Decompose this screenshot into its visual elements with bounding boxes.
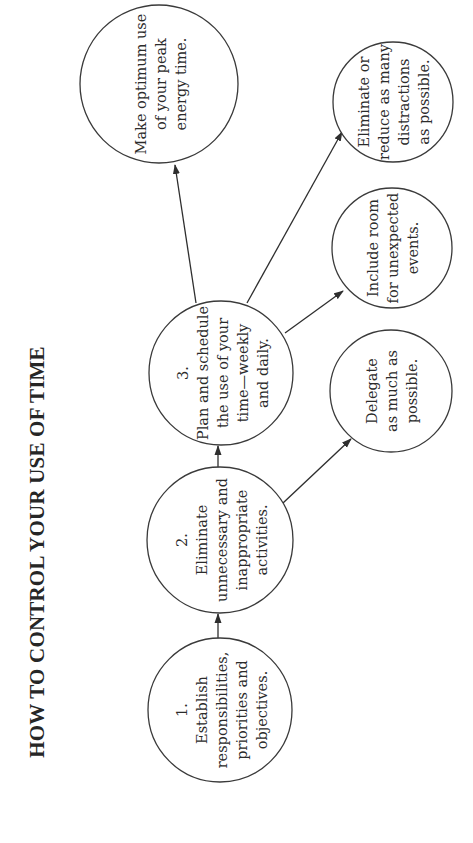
node-step1: 1. Establish responsibilities, prioritie… — [148, 638, 292, 782]
arrow-step3-to-distractions — [247, 132, 342, 303]
node-distractions: Eliminate or reduce as many distractions… — [333, 42, 453, 162]
node-distractions-line4: as possible. — [416, 59, 432, 144]
node-distractions-line3: distractions — [396, 59, 412, 146]
node-delegate-line1: Delegate — [364, 358, 380, 424]
arrow-step3-to-unexpected — [285, 291, 343, 333]
node-step3-line2: the use of your — [215, 318, 231, 428]
node-step1-line2: responsibilities, — [214, 652, 230, 769]
node-step2-line2: unnecessary and — [214, 478, 230, 602]
node-step3-line4: and daily. — [255, 338, 271, 408]
node-step2-line3: inappropriate — [234, 490, 250, 591]
node-distractions-circle — [333, 42, 453, 162]
node-step3-number: 3. — [175, 366, 191, 380]
node-step1-line1: Establish — [194, 676, 210, 744]
node-peak-energy: Make optimum use of your peak energy tim… — [80, 5, 238, 163]
diagram-title: HOW TO CONTROL YOUR USE OF TIME — [25, 346, 49, 758]
arrow-step3-to-peak-energy — [175, 165, 196, 303]
node-unexpected-line1: Include room — [365, 199, 381, 297]
node-delegate-line3: possible. — [404, 359, 420, 424]
node-peak-energy-line1: Make optimum use — [133, 14, 149, 155]
node-delegate-line2: as much as — [384, 350, 400, 432]
node-distractions-line1: Eliminate or — [356, 56, 372, 147]
node-peak-energy-line2: of your peak — [153, 38, 169, 130]
node-unexpected: Include room for unexpected events. — [332, 188, 452, 308]
node-distractions-line2: reduce as many — [376, 43, 392, 160]
node-step2-line1: Eliminate — [194, 505, 210, 576]
node-delegate: Delegate as much as possible. — [330, 330, 452, 452]
node-unexpected-line2: for unexpected — [385, 193, 401, 304]
node-peak-energy-line3: energy time. — [173, 38, 189, 131]
node-unexpected-line3: events. — [405, 222, 421, 275]
node-step2: 2. Eliminate unnecessary and inappropria… — [147, 467, 293, 613]
arrow-step2-to-delegate — [283, 439, 351, 503]
node-step2-line4: activities. — [254, 504, 270, 575]
node-step3-line3: time—weekly — [235, 323, 251, 422]
node-step1-number: 1. — [174, 703, 190, 717]
node-step1-line4: objectives. — [254, 671, 270, 750]
time-control-diagram: HOW TO CONTROL YOUR USE OF TIME 1. Estab… — [0, 0, 473, 843]
node-step3: 3. Plan and schedule the use of your tim… — [149, 301, 293, 445]
node-step2-number: 2. — [174, 533, 190, 547]
node-step1-line3: priorities and — [234, 660, 250, 760]
node-step3-line1: Plan and schedule — [195, 306, 211, 440]
